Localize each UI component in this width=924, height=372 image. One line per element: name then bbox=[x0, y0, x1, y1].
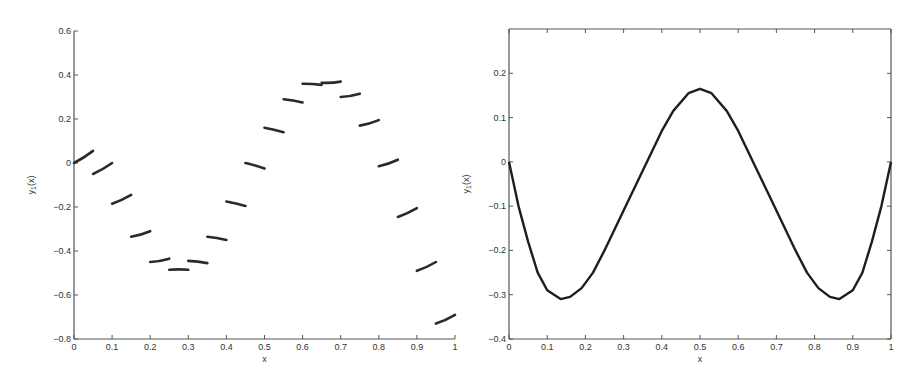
y-tick-label: −0.4 bbox=[488, 334, 506, 344]
y-axis-label: y1(x) bbox=[462, 175, 472, 194]
y-tick-label: −0.1 bbox=[488, 201, 506, 211]
x-axis-label: x bbox=[698, 354, 703, 364]
curve-segment bbox=[303, 84, 322, 85]
curve-segment bbox=[131, 231, 150, 237]
curve-segment bbox=[398, 208, 417, 217]
curve-segment bbox=[93, 163, 112, 174]
curve-segment bbox=[284, 99, 303, 102]
x-tick-label: 0.5 bbox=[258, 342, 271, 352]
y-tick-label: 0.1 bbox=[493, 113, 506, 123]
left-chart-panel: 00.10.20.30.40.50.60.70.80.91−0.8−0.6−0.… bbox=[0, 0, 462, 372]
x-tick-label: 0.9 bbox=[847, 342, 860, 352]
y-tick-label: 0.4 bbox=[58, 70, 71, 80]
curve-segment bbox=[245, 163, 264, 169]
x-tick-label: 0.5 bbox=[694, 342, 707, 352]
curve-segment bbox=[112, 195, 131, 204]
x-tick-label: 0.1 bbox=[541, 342, 554, 352]
y-tick-label: 0 bbox=[501, 157, 506, 167]
x-axis-label: x bbox=[262, 354, 267, 364]
x-tick-label: 0.3 bbox=[182, 342, 195, 352]
x-tick-label: 1 bbox=[452, 342, 457, 352]
curve-line bbox=[509, 89, 891, 299]
y-tick-label: −0.3 bbox=[488, 290, 506, 300]
curve-segment bbox=[379, 160, 398, 167]
y-axis-label: y1(x) bbox=[26, 176, 37, 195]
x-tick-label: 1 bbox=[888, 342, 893, 352]
x-tick-label: 0.9 bbox=[411, 342, 424, 352]
curve-segment bbox=[322, 82, 341, 83]
y-tick-label: 0.6 bbox=[58, 26, 71, 36]
y-tick-label: −0.8 bbox=[53, 334, 71, 344]
x-tick-label: 0.2 bbox=[579, 342, 592, 352]
y-tick-label: 0 bbox=[66, 158, 71, 168]
axes: 00.10.20.30.40.50.60.70.80.91−0.4−0.3−0.… bbox=[462, 29, 894, 364]
curve-segment bbox=[341, 94, 360, 97]
x-tick-label: 0.6 bbox=[732, 342, 745, 352]
x-tick-label: 0.8 bbox=[808, 342, 821, 352]
plot-data bbox=[509, 89, 891, 299]
x-tick-label: 0.7 bbox=[770, 342, 783, 352]
x-tick-label: 0.3 bbox=[617, 342, 630, 352]
y-tick-label: −0.4 bbox=[53, 246, 71, 256]
y-tick-label: −0.2 bbox=[488, 245, 506, 255]
x-tick-label: 0.4 bbox=[656, 342, 669, 352]
curve-segment bbox=[226, 202, 245, 206]
x-tick-label: 0 bbox=[71, 342, 76, 352]
x-tick-label: 0.2 bbox=[144, 342, 157, 352]
y-tick-label: 0.2 bbox=[493, 68, 506, 78]
x-tick-label: 0.1 bbox=[106, 342, 119, 352]
x-tick-label: 0.8 bbox=[373, 342, 386, 352]
curve-segment bbox=[265, 128, 284, 132]
curve-segment bbox=[360, 120, 379, 126]
right-chart-panel: 00.10.20.30.40.50.60.70.80.91−0.4−0.3−0.… bbox=[462, 0, 924, 372]
curve-segment bbox=[207, 237, 226, 240]
y-tick-label: 0.2 bbox=[58, 114, 71, 124]
x-tick-label: 0.7 bbox=[334, 342, 347, 352]
right-chart: 00.10.20.30.40.50.60.70.80.91−0.4−0.3−0.… bbox=[462, 0, 924, 372]
y-tick-label: −0.6 bbox=[53, 290, 71, 300]
curve-segment bbox=[74, 151, 93, 163]
curve-segment bbox=[150, 259, 169, 262]
y-tick-label: −0.2 bbox=[53, 202, 71, 212]
curve-segment bbox=[188, 261, 207, 263]
x-tick-label: 0.6 bbox=[296, 342, 309, 352]
axes: 00.10.20.30.40.50.60.70.80.91−0.8−0.6−0.… bbox=[26, 26, 458, 364]
left-chart: 00.10.20.30.40.50.60.70.80.91−0.8−0.6−0.… bbox=[0, 0, 462, 372]
curve-segment bbox=[417, 262, 436, 271]
plot-data bbox=[74, 82, 455, 324]
x-tick-label: 0 bbox=[506, 342, 511, 352]
curve-segment bbox=[436, 315, 455, 324]
x-tick-label: 0.4 bbox=[220, 342, 233, 352]
